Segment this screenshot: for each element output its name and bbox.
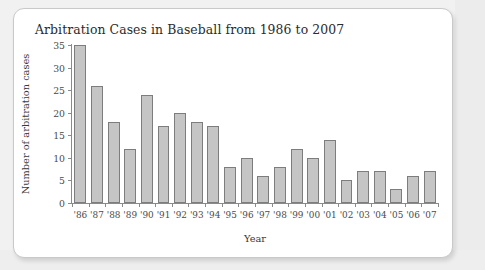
- x-tick-mark: [371, 203, 372, 207]
- page-root: Arbitration Cases in Baseball from 1986 …: [0, 0, 485, 270]
- plot-wrapper: Number of arbitration cases 051015202530…: [14, 9, 453, 258]
- bar-03: [357, 171, 369, 203]
- x-tick-mark: [238, 203, 239, 207]
- bar-99: [291, 149, 303, 203]
- x-tick-label: '02: [340, 210, 354, 220]
- bar-91: [158, 126, 170, 203]
- x-tick-label: '94: [207, 210, 221, 220]
- x-tick-label: '86: [73, 210, 87, 220]
- bar-88: [108, 122, 120, 203]
- bar-86: [74, 45, 86, 203]
- y-axis-title: Number of arbitration cases: [20, 54, 31, 195]
- x-tick-label: '89: [123, 210, 137, 220]
- bar-93: [191, 122, 203, 203]
- x-tick-label: '04: [373, 210, 387, 220]
- x-tick-mark: [89, 203, 90, 207]
- x-tick-mark: [272, 203, 273, 207]
- x-tick-mark: [305, 203, 306, 207]
- x-tick-label: '91: [157, 210, 171, 220]
- y-tick-label: 20: [53, 107, 65, 118]
- y-tick-label: 5: [59, 175, 65, 186]
- y-tick-mark: [68, 180, 72, 181]
- x-tick-label: '06: [406, 210, 420, 220]
- page-backdrop-right: [455, 0, 485, 270]
- y-tick-label: 10: [53, 152, 65, 163]
- x-tick-mark: [188, 203, 189, 207]
- x-tick-label: '99: [290, 210, 304, 220]
- x-tick-mark: [105, 203, 106, 207]
- x-tick-label: '87: [90, 210, 104, 220]
- x-tick-mark: [205, 203, 206, 207]
- x-tick-label: '05: [390, 210, 404, 220]
- x-tick-label: '92: [173, 210, 187, 220]
- bars-layer: [72, 45, 438, 203]
- bar-89: [124, 149, 136, 203]
- x-tick-label: '90: [140, 210, 154, 220]
- x-tick-mark: [172, 203, 173, 207]
- y-tick-mark: [68, 135, 72, 136]
- y-tick-label: 35: [53, 40, 65, 51]
- y-tick-mark: [68, 113, 72, 114]
- y-tick-label: 0: [59, 198, 65, 209]
- bar-05: [390, 189, 402, 203]
- x-tick-mark: [139, 203, 140, 207]
- y-tick-mark: [68, 90, 72, 91]
- x-tick-mark: [388, 203, 389, 207]
- x-tick-label: '01: [323, 210, 337, 220]
- bar-00: [307, 158, 319, 203]
- x-tick-mark: [72, 203, 73, 207]
- x-tick-label: '95: [223, 210, 237, 220]
- x-tick-label: '96: [240, 210, 254, 220]
- bar-92: [174, 113, 186, 203]
- bar-98: [274, 167, 286, 203]
- x-tick-label: '98: [273, 210, 287, 220]
- bar-96: [241, 158, 253, 203]
- x-tick-mark: [338, 203, 339, 207]
- y-tick-label: 25: [53, 85, 65, 96]
- y-tick-mark: [68, 45, 72, 46]
- bar-02: [341, 180, 353, 203]
- bar-07: [424, 171, 436, 203]
- x-tick-mark: [355, 203, 356, 207]
- y-tick-label: 30: [53, 62, 65, 73]
- x-tick-label: '00: [306, 210, 320, 220]
- x-tick-mark: [405, 203, 406, 207]
- x-tick-mark: [322, 203, 323, 207]
- y-tick-label: 15: [53, 130, 65, 141]
- x-tick-mark: [122, 203, 123, 207]
- y-tick-mark: [68, 68, 72, 69]
- x-tick-mark: [155, 203, 156, 207]
- bar-87: [91, 86, 103, 203]
- x-axis-title: Year: [244, 233, 266, 244]
- bar-95: [224, 167, 236, 203]
- y-tick-mark: [68, 158, 72, 159]
- chart-card: Arbitration Cases in Baseball from 1986 …: [13, 8, 453, 258]
- x-tick-mark: [255, 203, 256, 207]
- bar-90: [141, 95, 153, 203]
- plot-area: 05101520253035 '86'87'88'89'90'91'92'93'…: [72, 45, 438, 203]
- x-tick-mark: [438, 203, 439, 207]
- bar-97: [257, 176, 269, 203]
- x-tick-label: '97: [256, 210, 270, 220]
- x-tick-label: '07: [423, 210, 437, 220]
- x-tick-mark: [222, 203, 223, 207]
- bar-94: [207, 126, 219, 203]
- x-tick-label: '03: [356, 210, 370, 220]
- bar-04: [374, 171, 386, 203]
- x-tick-mark: [288, 203, 289, 207]
- bar-06: [407, 176, 419, 203]
- bar-01: [324, 140, 336, 203]
- x-tick-mark: [421, 203, 422, 207]
- x-tick-label: '88: [107, 210, 121, 220]
- x-tick-label: '93: [190, 210, 204, 220]
